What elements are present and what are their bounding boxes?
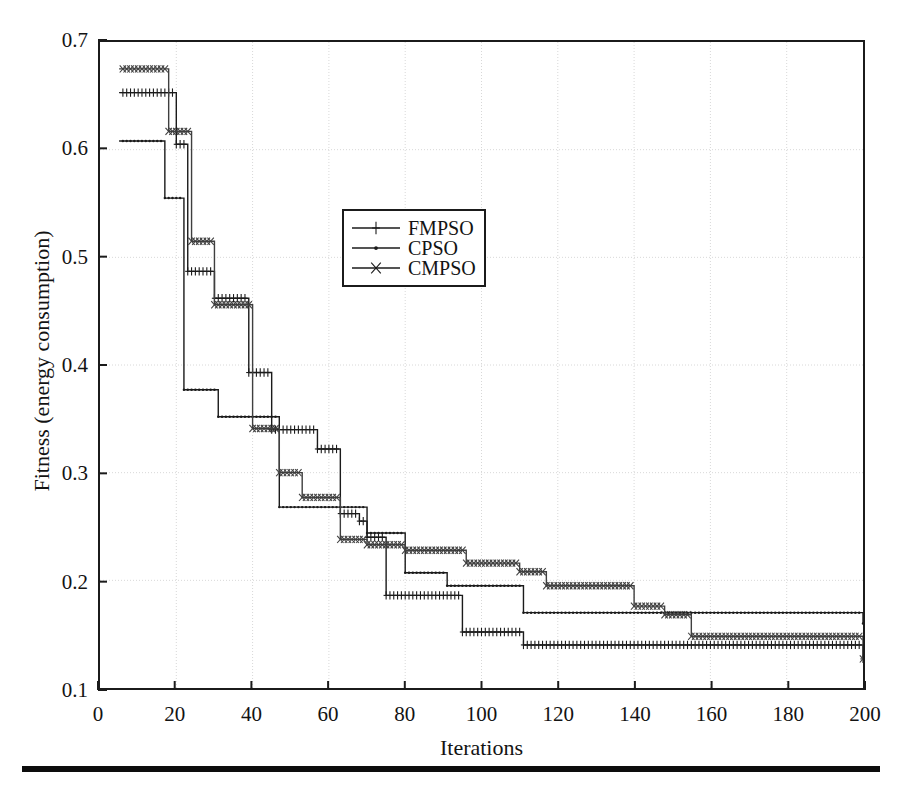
x-axis-title: Iterations [98,735,865,761]
x-tick-label: 20 [164,704,185,725]
x-tick-label: 60 [318,704,339,725]
y-tick-label: 0.6 [30,138,88,159]
figure-container: Fitness (energy consumption) 0.10.20.30.… [0,0,903,790]
legend-marker-plus-icon [350,219,402,237]
plot-area [98,40,865,690]
x-tick-label: 180 [773,704,805,725]
legend-item-cmpso[interactable]: CMPSO [350,258,478,278]
x-tick-label: 140 [619,704,651,725]
y-tick-label: 0.7 [30,30,88,51]
y-tick-label: 0.4 [30,355,88,376]
x-tick-label: 160 [696,704,728,725]
legend-item-cpso[interactable]: CPSO [350,238,478,258]
legend-marker-dot-icon [350,239,402,257]
series-cpso [119,140,863,625]
y-tick-label: 0.3 [30,463,88,484]
x-tick-label: 80 [394,704,415,725]
chart-legend: FMPSOCPSOCMPSO [342,209,486,287]
x-tick-label: 0 [93,704,104,725]
y-tick-label: 0.1 [30,680,88,701]
y-tick-label: 0.5 [30,246,88,267]
x-tick-label: 40 [241,704,262,725]
x-tick-label: 100 [466,704,498,725]
legend-label: FMPSO [408,218,474,238]
series-cmpso [119,65,863,662]
series-fmpso [119,88,863,663]
x-tick-label: 200 [849,704,881,725]
legend-marker-cross-icon [350,259,402,277]
legend-item-fmpso[interactable]: FMPSO [350,218,478,238]
series-lines [100,42,863,688]
figure-separator-rule [22,766,880,772]
legend-label: CPSO [408,238,458,258]
y-tick-label: 0.2 [30,571,88,592]
x-tick-label: 120 [542,704,574,725]
legend-label: CMPSO [408,258,476,278]
